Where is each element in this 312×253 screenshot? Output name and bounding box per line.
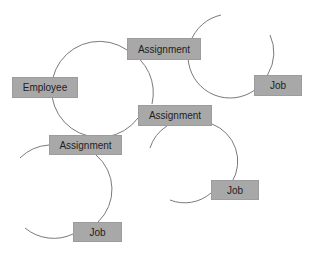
- connector-arc-middle-right-c: [170, 193, 211, 203]
- connector-arc-middle-right: [150, 126, 167, 148]
- node-job-top-right[interactable]: Job: [254, 75, 302, 96]
- node-label: Job: [270, 80, 286, 91]
- node-employee[interactable]: Employee: [12, 77, 78, 98]
- node-assignment-middle[interactable]: Assignment: [138, 105, 212, 126]
- connector-arc-top-right-b: [268, 35, 274, 74]
- node-label: Job: [227, 185, 243, 196]
- connector-arc-lower-left-b: [96, 155, 112, 222]
- connector-arc-middle-right-b: [212, 124, 238, 182]
- node-label: Assignment: [149, 110, 201, 121]
- node-label: Assignment: [138, 44, 190, 55]
- node-assignment-lower-left[interactable]: Assignment: [49, 135, 122, 155]
- node-job-bottom[interactable]: Job: [73, 222, 122, 242]
- connector-arc-lower-left-c: [25, 228, 73, 238]
- node-label: Job: [89, 227, 105, 238]
- node-job-middle-right[interactable]: Job: [211, 180, 259, 200]
- node-label: Assignment: [59, 140, 111, 151]
- node-assignment-top[interactable]: Assignment: [127, 38, 201, 60]
- node-label: Employee: [23, 82, 67, 93]
- connector-arc-lower-left: [20, 145, 49, 158]
